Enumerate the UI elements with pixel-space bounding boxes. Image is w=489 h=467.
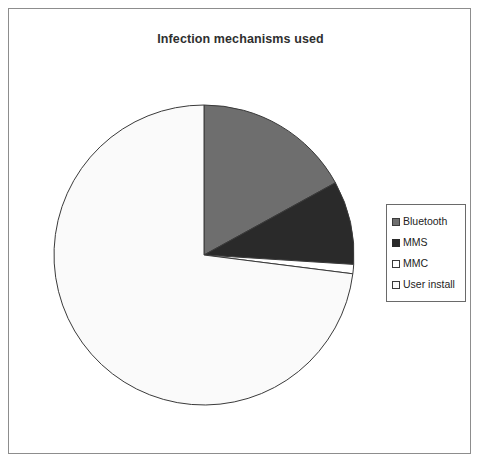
legend-swatch-icon-user-install xyxy=(392,281,400,289)
legend-item-mmc[interactable]: MMC xyxy=(392,253,461,274)
pie-slice-group xyxy=(54,105,354,405)
chart-legend: Bluetooth MMS MMC User install xyxy=(386,204,466,302)
legend-label-mms: MMS xyxy=(403,237,428,248)
legend-label-mmc: MMC xyxy=(403,258,428,269)
legend-label-bluetooth: Bluetooth xyxy=(403,216,447,227)
legend-item-user-install[interactable]: User install xyxy=(392,274,461,295)
chart-page-frame: Infection mechanisms used Bluetooth MMS … xyxy=(8,8,471,454)
legend-item-bluetooth[interactable]: Bluetooth xyxy=(392,211,461,232)
legend-swatch-icon-bluetooth xyxy=(392,218,400,226)
legend-swatch-icon-mms xyxy=(392,239,400,247)
legend-item-mms[interactable]: MMS xyxy=(392,232,461,253)
legend-swatch-icon-mmc xyxy=(392,260,400,268)
legend-label-user-install: User install xyxy=(403,279,455,290)
